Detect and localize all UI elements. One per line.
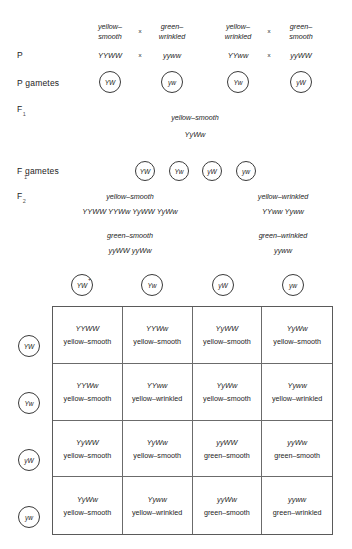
punnett-cell-phenotype: green–smooth [274, 451, 320, 460]
punnett-column-gamete-1-marker: + [88, 276, 91, 282]
parent-cross-2-right-phenotype-line2: smooth [274, 32, 328, 42]
punnett-cell: YYWwyellow–smooth [53, 364, 123, 421]
parent-cross-2-left-genotype: YYww [213, 51, 263, 60]
punnett-cell: YyWwyellow–smooth [193, 364, 263, 421]
punnett-cell-phenotype: green–smooth [204, 451, 250, 460]
punnett-cell-genotype: yyWw [217, 495, 237, 504]
stage-label-p-gametes-text: P gametes [17, 78, 59, 88]
punnett-cell-genotype: YyWW [76, 438, 99, 447]
f2-summary-genotypes-4: yyww [223, 246, 343, 255]
punnett-cell-genotype: YyWW [216, 324, 239, 333]
f1-gamete-3-label: yW [207, 168, 217, 175]
f2-summary-genotypes-3: yyWW yyWw [60, 246, 200, 255]
f1-gamete-circle-1: YW [135, 161, 155, 181]
punnett-cell-phenotype: yellow–smooth [203, 337, 251, 346]
punnett-column-gamete-4: yw [282, 274, 304, 296]
punnett-cell-phenotype: yellow–wrinkled [132, 508, 182, 517]
p-gamete-2-label: yw [168, 79, 176, 86]
punnett-cell-genotype: yyWw [287, 438, 307, 447]
punnett-cell-genotype: YyWw [147, 438, 168, 447]
punnett-cell: YyWWyellow–smooth [53, 421, 123, 478]
punnett-cell-genotype: YyWw [77, 495, 98, 504]
punnett-cell: yyWWgreen–smooth [193, 421, 263, 478]
f1-gamete-4-label: yw [242, 168, 250, 175]
parent-cross-1-left-phenotype: yellow– smooth [85, 22, 135, 41]
stage-label-p-gametes: P gametes [17, 78, 59, 88]
punnett-cell: yyWwgreen–smooth [193, 477, 263, 534]
parent-cross-2-left-phenotype-line2: wrinkled [213, 32, 263, 42]
punnett-cell: YYwwyellow–wrinkled [123, 364, 193, 421]
parent-cross-2-phenotype-operator: x [264, 27, 274, 34]
punnett-row-gamete-1: YW [18, 335, 40, 357]
punnett-cell-genotype: Yyww [147, 495, 166, 504]
punnett-cell: Yywwyellow–wrinkled [262, 364, 332, 421]
f1-genotype: YyWw [145, 130, 245, 139]
punnett-cell: YyWwyellow–smooth [262, 307, 332, 364]
punnett-column-gamete-2: Yw [141, 274, 163, 296]
punnett-cell-genotype: yyWW [216, 438, 237, 447]
stage-label-p-text: P [17, 50, 23, 60]
punnett-cell-genotype: YyWw [287, 324, 308, 333]
punnett-row-gamete-3-label: yW [24, 457, 34, 464]
f1-gamete-1-label: YW [140, 168, 151, 175]
punnett-cell-phenotype: yellow–smooth [133, 337, 181, 346]
p-gamete-1-label: YW [105, 79, 116, 86]
parent-cross-1-right-genotype: yyww [145, 51, 199, 60]
punnett-column-gamete-1: YW + [71, 274, 93, 296]
punnett-cell-phenotype: yellow–wrinkled [132, 394, 182, 403]
punnett-cell-phenotype: yellow–smooth [64, 451, 112, 460]
stage-label-f2-text: F [17, 191, 22, 201]
punnett-cell-phenotype: green–smooth [204, 508, 250, 517]
parent-cross-2-left-phenotype-line1: yellow– [213, 22, 263, 32]
stage-label-f1: F1 [17, 104, 26, 116]
punnett-cell-phenotype: yellow–smooth [64, 394, 112, 403]
f2-summary-genotypes-1: YYWW YYWw YyWW YyWw [52, 207, 208, 216]
punnett-cell-phenotype: yellow–smooth [273, 337, 321, 346]
f1-gamete-circle-3: yW [202, 161, 222, 181]
punnett-grid: YYWWyellow–smooth YYWwyellow–smooth YyWW… [52, 306, 333, 535]
f1-gamete-2-label: Yw [174, 168, 183, 175]
p-gamete-3-label: Yw [233, 79, 242, 86]
parent-cross-2-genotype-operator: x [264, 51, 274, 58]
f1-gamete-circle-4: yw [236, 161, 256, 181]
f1-gamete-circle-2: Yw [169, 161, 189, 181]
punnett-cell: YyWwyellow–smooth [53, 477, 123, 534]
punnett-row-gamete-3: yW [18, 449, 40, 471]
parent-cross-1-right-phenotype: green– wrinkled [145, 22, 199, 41]
stage-label-f1-text: F [17, 104, 22, 114]
f1-phenotype: yellow–smooth [145, 113, 245, 123]
punnett-cell: Yywwyellow–wrinkled [123, 477, 193, 534]
f2-summary-genotypes-2: YYww Yyww [223, 207, 343, 216]
stage-label-f2-subscript: 2 [23, 198, 26, 204]
punnett-cell-phenotype: green–wrinkled [273, 508, 322, 517]
parent-cross-1-left-genotype: YYWW [85, 51, 135, 60]
p-gamete-4-label: yW [296, 79, 306, 86]
punnett-cell-phenotype: yellow–smooth [64, 508, 112, 517]
f2-summary-phenotype-3: green–smooth [60, 231, 200, 241]
punnett-cell: YYWWyellow–smooth [53, 307, 123, 364]
f2-summary-phenotype-1: yellow–smooth [60, 192, 200, 202]
punnett-cell: YyWwyellow–smooth [123, 421, 193, 478]
stage-label-f1-gametes: F gametes1 [17, 166, 59, 176]
punnett-cell-phenotype: yellow–smooth [133, 451, 181, 460]
parent-cross-1-right-phenotype-line2: wrinkled [145, 32, 199, 42]
stage-label-f1-gametes-subscript: 1 [24, 174, 27, 180]
parent-cross-2-left-phenotype: yellow– wrinkled [213, 22, 263, 41]
punnett-cell-phenotype: yellow–smooth [64, 337, 112, 346]
punnett-column-gamete-3: yW [212, 274, 234, 296]
parent-cross-1-genotype-operator: x [135, 51, 145, 58]
f2-summary-phenotype-4: green–wrinkled [223, 231, 343, 241]
punnett-row-gamete-1-label: YW [24, 343, 35, 350]
punnett-column-gamete-3-label: yW [218, 282, 228, 289]
parent-cross-1-left-phenotype-line2: smooth [85, 32, 135, 42]
punnett-cell-genotype: yyww [288, 495, 306, 504]
punnett-cell-genotype: YYWw [76, 381, 98, 390]
punnett-cell-phenotype: yellow–wrinkled [272, 394, 322, 403]
p-gamete-circle-2: yw [161, 71, 183, 93]
punnett-column-gamete-4-label: yw [289, 282, 297, 289]
punnett-cell-genotype: YYWW [75, 324, 99, 333]
p-gamete-circle-3: Yw [227, 71, 249, 93]
punnett-cell: yyWwgreen–smooth [262, 421, 332, 478]
p-gamete-circle-4: yW [290, 71, 312, 93]
stage-label-f2: F2 [17, 191, 26, 203]
